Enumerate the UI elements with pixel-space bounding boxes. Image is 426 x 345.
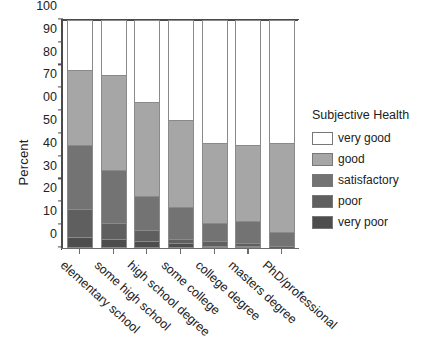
bar-college-degree — [202, 21, 228, 248]
bar-segment-poor — [67, 209, 93, 236]
y-tick-label: 0 — [50, 227, 63, 241]
bar-segment-poor — [168, 239, 194, 244]
bar-some-college — [168, 21, 194, 248]
bar-segment-satisfactory — [202, 223, 228, 241]
bar-segment-good — [101, 75, 127, 171]
bar-segment-poor — [101, 223, 127, 239]
bar-some-high-school — [101, 21, 127, 248]
x-tick-mark — [281, 249, 282, 254]
y-tick-label: 80 — [43, 45, 63, 59]
legend-item[interactable]: very good — [312, 131, 424, 145]
bar-segment-very-poor — [101, 239, 127, 248]
bar-segment-satisfactory — [134, 196, 160, 230]
legend-title: Subjective Health — [312, 108, 424, 122]
bar-segment-good — [269, 143, 295, 232]
bar-segment-very-poor — [67, 237, 93, 248]
y-tick-label: 00 — [43, 90, 63, 104]
plot-area: 0102030405000708090100 — [62, 20, 298, 248]
x-tick-mark — [79, 249, 80, 254]
bar-segment-good — [67, 70, 93, 145]
legend-swatch-icon — [312, 174, 333, 187]
bar-segment-good — [168, 120, 194, 207]
bar-segment-very-good — [269, 20, 295, 143]
bar-segment-very-good — [67, 20, 93, 70]
bar-segment-very-poor — [168, 243, 194, 248]
bar-segment-very-poor — [134, 241, 160, 248]
bar-segment-satisfactory — [101, 170, 127, 222]
legend-label: poor — [338, 194, 362, 208]
x-tick-mark — [113, 249, 114, 254]
bar-group — [63, 21, 298, 248]
legend-swatch-icon — [312, 132, 333, 145]
legend-label: very poor — [338, 215, 388, 229]
legend-label: very good — [338, 131, 391, 145]
legend-swatch-icon — [312, 216, 333, 229]
y-tick-label: 30 — [43, 159, 63, 173]
bar-elementary-school — [67, 21, 93, 248]
bar-segment-very-good — [168, 20, 194, 120]
bar-segment-satisfactory — [67, 145, 93, 209]
bar-segment-satisfactory — [235, 221, 261, 244]
bar-phd-professional — [269, 21, 295, 248]
y-tick-label: 90 — [43, 22, 63, 36]
stacked-bar-chart: Percent 0102030405000708090100 elementar… — [0, 0, 426, 345]
bar-segment-poor — [235, 243, 261, 245]
legend-item[interactable]: satisfactory — [312, 173, 424, 187]
y-tick-label: 100 — [36, 0, 63, 13]
legend-label: good — [338, 152, 365, 166]
y-tick-label: 50 — [43, 113, 63, 127]
bar-segment-good — [134, 102, 160, 195]
bar-segment-very-good — [101, 20, 127, 75]
y-tick-label: 20 — [43, 181, 63, 195]
y-tick-label: 70 — [43, 67, 63, 81]
legend-items: very goodgoodsatisfactorypoorvery poor — [312, 131, 424, 229]
y-tick-label: 10 — [43, 204, 63, 218]
y-tick-mark — [58, 18, 63, 19]
x-tick-mark — [146, 249, 147, 254]
legend-swatch-icon — [312, 153, 333, 166]
bar-segment-very-good — [134, 20, 160, 102]
y-tick-label: 40 — [43, 136, 63, 150]
bar-segment-very-poor — [235, 246, 261, 248]
legend-label: satisfactory — [338, 173, 399, 187]
bar-segment-good — [202, 143, 228, 223]
y-axis-title: Percent — [16, 118, 31, 208]
bar-segment-satisfactory — [168, 207, 194, 239]
legend-item[interactable]: good — [312, 152, 424, 166]
legend-swatch-icon — [312, 195, 333, 208]
legend-item[interactable]: poor — [312, 194, 424, 208]
bar-high-school-degree — [134, 21, 160, 248]
bar-segment-poor — [269, 246, 295, 248]
bar-segment-very-poor — [202, 246, 228, 248]
bar-segment-very-good — [202, 20, 228, 143]
bar-segment-poor — [202, 241, 228, 246]
bar-segment-poor — [134, 230, 160, 241]
x-tick-mark — [214, 249, 215, 254]
x-tick-mark — [180, 249, 181, 254]
legend-item[interactable]: very poor — [312, 215, 424, 229]
bar-masters-degree — [235, 21, 261, 248]
x-tick-mark — [247, 249, 248, 254]
legend: Subjective Health very goodgoodsatisfact… — [312, 108, 424, 236]
bar-segment-good — [235, 145, 261, 220]
bar-segment-very-good — [235, 20, 261, 145]
bar-segment-satisfactory — [269, 232, 295, 246]
